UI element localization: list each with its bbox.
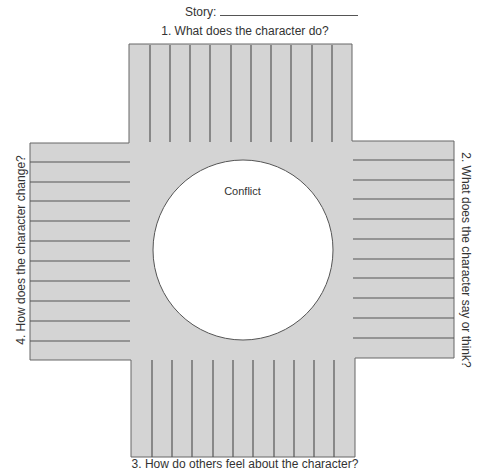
section-label-bottom: 3. How do others feel about the characte… (0, 457, 480, 471)
section-label-right: 2. What does the character say or think? (459, 152, 473, 367)
section-label-left: 4. How does the character change? (14, 155, 28, 344)
conflict-cross-diagram (0, 0, 480, 475)
conflict-label: Conflict (200, 185, 285, 197)
